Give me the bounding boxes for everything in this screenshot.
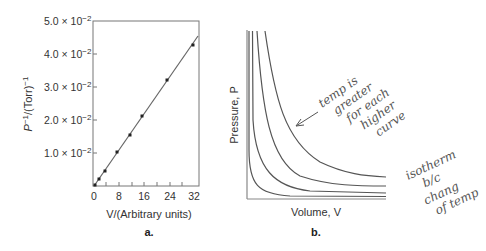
figure: 1.0 × 10−2 2.0 × 10−2 3.0 × 10−2 4.0 × 1… bbox=[0, 0, 486, 251]
x-axis-label-a: V/(Arbitrary units) bbox=[106, 208, 192, 220]
svg-text:24: 24 bbox=[164, 190, 176, 202]
x-ticks-a bbox=[106, 182, 182, 186]
plot-frame-a bbox=[93, 21, 199, 186]
svg-text:8: 8 bbox=[116, 190, 122, 202]
panel-label-b: b. bbox=[311, 226, 321, 238]
svg-text:2.0 × 10−2: 2.0 × 10−2 bbox=[44, 113, 92, 126]
handwritten-note-1: temp is greater for each higher curve bbox=[316, 62, 409, 156]
fit-line bbox=[94, 36, 198, 186]
svg-text:1.0 × 10−2: 1.0 × 10−2 bbox=[44, 146, 92, 159]
svg-text:4.0 × 10−2: 4.0 × 10−2 bbox=[44, 47, 92, 60]
y-ticks-a bbox=[93, 54, 97, 153]
x-tick-labels-a: 0 8 16 24 32 bbox=[91, 190, 200, 202]
y-axis-label-b: Pressure, P bbox=[228, 86, 240, 143]
svg-text:5.0 × 10−2: 5.0 × 10−2 bbox=[44, 14, 92, 27]
y-axis-label-a: P−1/(Torr)−1 bbox=[21, 76, 34, 131]
svg-text:3.0 × 10−2: 3.0 × 10−2 bbox=[44, 80, 92, 93]
svg-text:0: 0 bbox=[91, 190, 97, 202]
x-axis-label-b: Volume, V bbox=[291, 206, 342, 218]
annotation-arrow bbox=[296, 112, 318, 126]
svg-text:32: 32 bbox=[188, 190, 200, 202]
panel-label-a: a. bbox=[144, 226, 153, 238]
panel-b-chart: temp is greater for each higher curve is… bbox=[228, 30, 481, 238]
y-tick-labels-a: 1.0 × 10−2 2.0 × 10−2 3.0 × 10−2 4.0 × 1… bbox=[44, 14, 92, 159]
handwritten-note-2: isotherm b/c chang of temp bbox=[403, 145, 481, 222]
svg-text:16: 16 bbox=[138, 190, 150, 202]
panel-a-chart: 1.0 × 10−2 2.0 × 10−2 3.0 × 10−2 4.0 × 1… bbox=[21, 14, 200, 238]
